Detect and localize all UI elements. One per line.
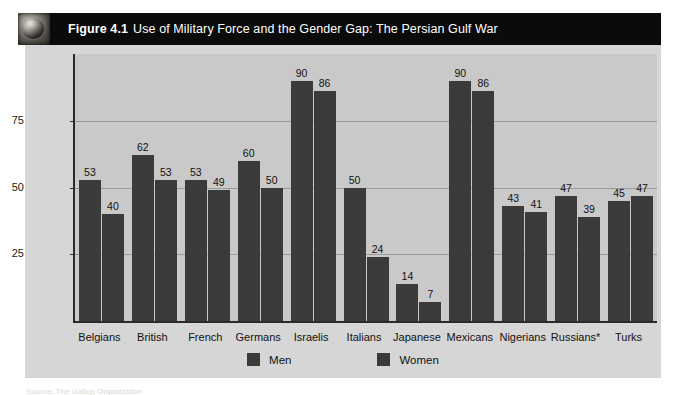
bar-french-men: 53	[185, 180, 207, 322]
bar-value-label: 7	[427, 288, 433, 300]
bar-value-label: 49	[213, 176, 225, 188]
x-axis-label-germans: Germans	[236, 331, 281, 343]
bar-value-label: 86	[477, 77, 489, 89]
bar-value-label: 39	[583, 203, 595, 215]
bar-value-label: 41	[530, 198, 542, 210]
bar-value-label: 62	[137, 141, 149, 153]
bar-value-label: 47	[636, 182, 648, 194]
plot-area: 5340625353496050908650241479086434147394…	[73, 54, 657, 323]
bar-value-label: 53	[160, 166, 172, 178]
bar-turks-men: 45	[608, 201, 630, 321]
bar-japanese-men: 14	[396, 284, 418, 321]
bar-italians-women: 24	[367, 257, 389, 321]
x-axis-label-japanese: Japanese	[393, 331, 441, 343]
figure-title-text: Use of Military Force and the Gender Gap…	[133, 22, 498, 36]
legend-swatch-men	[247, 353, 260, 366]
bar-value-label: 50	[266, 174, 278, 186]
figure-title: Figure 4.1Use of Military Force and the …	[68, 22, 498, 36]
legend-swatch-women	[377, 353, 390, 366]
bar-russians-men: 47	[555, 196, 577, 321]
bar-russians-women: 39	[578, 217, 600, 321]
bar-belgians-men: 53	[79, 180, 101, 322]
y-tick-label: 75	[0, 114, 24, 126]
bar-israelis-men: 90	[291, 81, 313, 321]
bar-germans-men: 60	[238, 161, 260, 321]
bar-germans-women: 50	[261, 188, 283, 322]
figure-title-bar: Figure 4.1Use of Military Force and the …	[25, 13, 661, 45]
bar-value-label: 45	[613, 187, 625, 199]
figure-panel: Gender (% willing to use force) 53406253…	[25, 45, 661, 378]
globe-icon	[18, 13, 50, 45]
bar-value-label: 24	[372, 243, 384, 255]
bar-nigerians-women: 41	[525, 212, 547, 321]
bars-layer: 5340625353496050908650241479086434147394…	[75, 54, 657, 321]
x-axis-label-nigerians: Nigerians	[499, 331, 545, 343]
x-axis-label-mexicans: Mexicans	[447, 331, 493, 343]
bar-israelis-women: 86	[314, 91, 336, 321]
bar-value-label: 53	[190, 166, 202, 178]
y-tick-label: 50	[0, 181, 24, 193]
legend-label-men: Men	[269, 354, 291, 366]
bar-value-label: 86	[319, 77, 331, 89]
bar-british-women: 53	[155, 180, 177, 322]
x-axis-label-belgians: Belgians	[78, 331, 120, 343]
bar-value-label: 53	[84, 166, 96, 178]
bar-value-label: 43	[507, 192, 519, 204]
x-axis-label-british: British	[137, 331, 168, 343]
bar-value-label: 60	[243, 147, 255, 159]
bar-italians-men: 50	[344, 188, 366, 322]
figure-caption-sliver: Source: The Gallup Organization	[26, 388, 142, 395]
legend-item-men: Men	[247, 353, 291, 366]
x-axis-label-turks: Turks	[615, 331, 642, 343]
bar-mexicans-men: 90	[449, 81, 471, 321]
x-axis-label-french: French	[188, 331, 222, 343]
x-axis-label-italians: Italians	[347, 331, 382, 343]
y-tick-label: 25	[0, 247, 24, 259]
bar-nigerians-men: 43	[502, 206, 524, 321]
figure-number: Figure 4.1	[68, 22, 128, 36]
legend-item-women: Women	[377, 353, 438, 366]
x-axis-label-russians: Russians*	[551, 331, 601, 343]
bar-mexicans-women: 86	[472, 91, 494, 321]
bar-value-label: 40	[107, 200, 119, 212]
bar-value-label: 90	[454, 67, 466, 79]
bar-value-label: 14	[402, 270, 414, 282]
bar-british-men: 62	[132, 155, 154, 321]
bar-belgians-women: 40	[102, 214, 124, 321]
figure-container: Figure 4.1Use of Military Force and the …	[0, 0, 682, 395]
chart-legend: Men Women	[25, 353, 661, 366]
bar-french-women: 49	[208, 190, 230, 321]
bar-japanese-women: 7	[419, 302, 441, 321]
bar-turks-women: 47	[631, 196, 653, 321]
bar-value-label: 47	[560, 182, 572, 194]
legend-label-women: Women	[399, 354, 438, 366]
bar-value-label: 90	[296, 67, 308, 79]
bar-value-label: 50	[349, 174, 361, 186]
x-axis-label-israelis: Israelis	[294, 331, 329, 343]
